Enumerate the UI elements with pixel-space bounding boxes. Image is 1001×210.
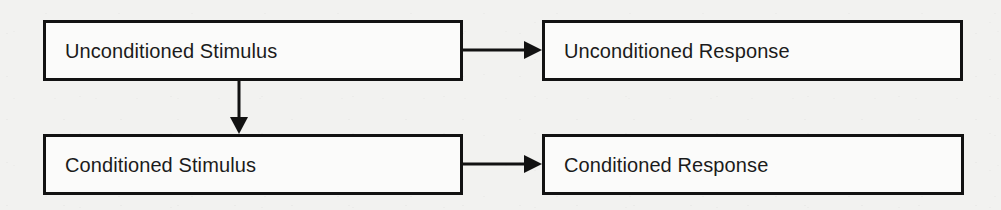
classical-conditioning-diagram: Unconditioned Stimulus Unconditioned Res… — [0, 0, 1001, 210]
arrow-us-to-ur-head-icon — [524, 41, 542, 59]
node-label-conditioned-stimulus: Conditioned Stimulus — [46, 155, 256, 175]
arrow-us-to-cs-head-icon — [230, 117, 248, 134]
node-unconditioned-response: Unconditioned Response — [542, 20, 963, 81]
arrow-cs-to-cr — [463, 155, 542, 173]
arrow-us-to-ur — [463, 41, 542, 59]
arrow-cs-to-cr-head-icon — [524, 155, 542, 173]
node-label-unconditioned-response: Unconditioned Response — [545, 41, 790, 61]
node-conditioned-response: Conditioned Response — [542, 134, 964, 195]
node-unconditioned-stimulus: Unconditioned Stimulus — [43, 20, 463, 81]
node-conditioned-stimulus: Conditioned Stimulus — [43, 134, 463, 195]
node-label-conditioned-response: Conditioned Response — [545, 155, 768, 175]
arrow-us-to-cs — [230, 81, 248, 134]
node-label-unconditioned-stimulus: Unconditioned Stimulus — [46, 41, 277, 61]
